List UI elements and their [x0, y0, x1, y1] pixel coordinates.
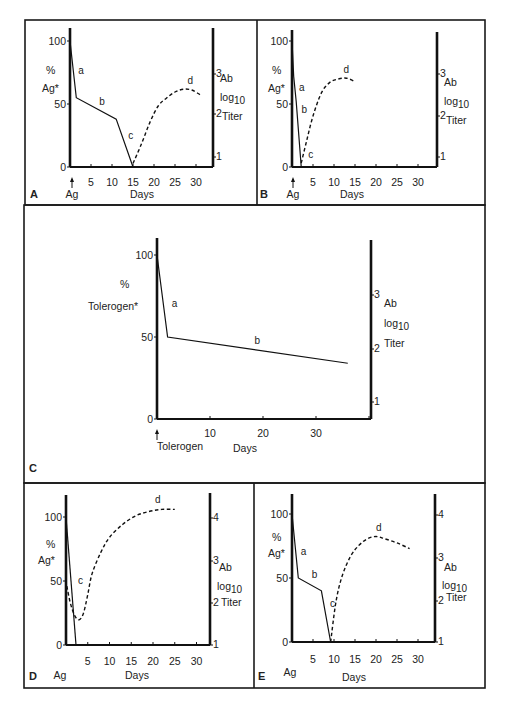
x-tick-label: 20 — [148, 176, 160, 188]
panel-b: 05010012351015202530abcd%Ag*Ablog10Titer… — [260, 30, 470, 200]
y2-axis-label-titer: Titer — [384, 337, 405, 349]
x-tick-label: 20 — [370, 176, 382, 188]
x-tick-label: 25 — [169, 176, 181, 188]
panel-c: 050100123102030ab%Tolerogen*Ablog10Titer… — [29, 238, 410, 474]
x-tick-label: 15 — [349, 176, 361, 188]
y2-axis-label-ab: Ab — [220, 72, 233, 84]
y-tick-label: 50 — [141, 331, 153, 343]
x-tick-label: 25 — [391, 653, 403, 665]
injection-label: Ag — [54, 669, 67, 681]
injection-label: Tolerogen — [157, 440, 203, 452]
y-tick-label: 100 — [48, 35, 66, 47]
y-tick-label: 100 — [135, 249, 153, 261]
y-tick-label: 0 — [60, 161, 66, 173]
y2-tick-label: 1 — [213, 638, 219, 650]
x-axis-label-days: Days — [125, 669, 149, 681]
y2-tick-label: 3 — [374, 288, 380, 300]
panel-letter-a: A — [30, 188, 38, 200]
y2-axis-label-log: log10 — [220, 91, 246, 106]
x-tick-label: 15 — [127, 176, 139, 188]
y2-axis-label-log: log10 — [444, 95, 470, 110]
x-tick-label: 5 — [85, 655, 91, 667]
x-tick-label: 30 — [191, 655, 203, 667]
y2-tick-label: 1 — [374, 395, 380, 407]
tolerogen-curve — [157, 255, 348, 363]
y2-axis-label-log: log10 — [384, 317, 410, 332]
y-tick-label: 0 — [56, 639, 62, 651]
y-axis-label-substance: Ag* — [268, 82, 285, 94]
y2-tick-label: 2 — [438, 594, 444, 606]
curve-label-a: a — [301, 546, 307, 557]
panel-d: 050100123451015202530cd%Ag*Ablog10TiterD… — [29, 493, 243, 682]
y2-axis-label-ab: Ab — [444, 561, 457, 573]
y2-tick-label: 4 — [438, 508, 444, 520]
x-tick-label: 25 — [391, 176, 403, 188]
x-axis-label-days: Days — [342, 671, 366, 683]
arrowhead-icon — [291, 177, 295, 182]
curve-label-c: c — [330, 598, 335, 609]
curve-label-a: a — [299, 82, 305, 93]
antibody-curve — [331, 537, 410, 643]
y-tick-label: 100 — [270, 35, 288, 47]
figure-canvas: 05010012351015202530abcd%Ag*Ablog10Titer… — [0, 0, 506, 710]
y-tick-label: 100 — [270, 508, 288, 520]
y-axis-label-percent: % — [272, 531, 281, 543]
x-axis-label-days: Days — [340, 188, 364, 200]
arrowhead-icon — [70, 177, 74, 182]
y2-axis-label-titer: Titer — [446, 114, 467, 126]
y-axis-label-substance: Ag* — [38, 554, 55, 566]
y-axis-label-percent: % — [120, 278, 129, 290]
x-tick-label: 10 — [106, 176, 118, 188]
antibody-curve — [67, 509, 175, 620]
y2-tick-label: 2 — [374, 342, 380, 354]
y-axis-label-percent: % — [46, 64, 55, 76]
injection-label: Ag — [287, 188, 300, 200]
y-tick-label: 50 — [276, 572, 288, 584]
y-axis-label-substance: Ag* — [42, 82, 59, 94]
x-tick-label: 30 — [412, 176, 424, 188]
arrowhead-icon — [155, 429, 159, 434]
antibody-curve — [133, 89, 200, 163]
x-tick-label: 10 — [104, 655, 116, 667]
x-tick-label: 10 — [328, 176, 340, 188]
y2-axis-label-log: log10 — [217, 580, 243, 595]
panel-letter-b: B — [260, 188, 268, 200]
y2-tick-label: 1 — [438, 635, 444, 647]
curve-label-d: d — [344, 64, 350, 75]
x-tick-label: 30 — [412, 653, 424, 665]
x-tick-label: 15 — [349, 653, 361, 665]
panel-frames — [24, 20, 485, 688]
x-tick-label: 20 — [257, 427, 269, 439]
curve-label-d: d — [188, 75, 194, 86]
x-tick-label: 5 — [310, 653, 316, 665]
x-tick-label: 5 — [310, 176, 316, 188]
curve-label-c: c — [78, 575, 83, 586]
x-tick-label: 30 — [310, 427, 322, 439]
x-tick-label: 20 — [147, 655, 159, 667]
x-tick-label: 10 — [328, 653, 340, 665]
curve-label-d: d — [155, 494, 161, 505]
y2-tick-label: 1 — [440, 150, 446, 162]
y-tick-label: 50 — [276, 98, 288, 110]
curve-label-b: b — [99, 96, 105, 107]
x-tick-label: 20 — [370, 653, 382, 665]
x-tick-label: 15 — [125, 655, 137, 667]
y-tick-label: 50 — [50, 575, 62, 587]
x-tick-label: 30 — [190, 176, 202, 188]
curve-label-c: c — [308, 149, 313, 160]
curve-label-b: b — [254, 335, 260, 346]
curve-label-a: a — [78, 65, 84, 76]
y-tick-label: 0 — [282, 161, 288, 173]
injection-label: Ag — [284, 666, 297, 678]
antigen-curve — [292, 41, 301, 167]
x-axis-label-days: Days — [233, 442, 257, 454]
x-tick-label: 5 — [88, 176, 94, 188]
y-tick-label: 100 — [44, 511, 62, 523]
panel-letter-e: E — [258, 670, 265, 682]
y-tick-label: 0 — [282, 636, 288, 648]
curve-label-c: c — [128, 130, 133, 141]
curve-label-b: b — [312, 569, 318, 580]
y-axis-label-substance: Ag* — [268, 547, 285, 559]
y-tick-label: 0 — [147, 413, 153, 425]
y2-axis-label-titer: Titer — [446, 591, 467, 603]
